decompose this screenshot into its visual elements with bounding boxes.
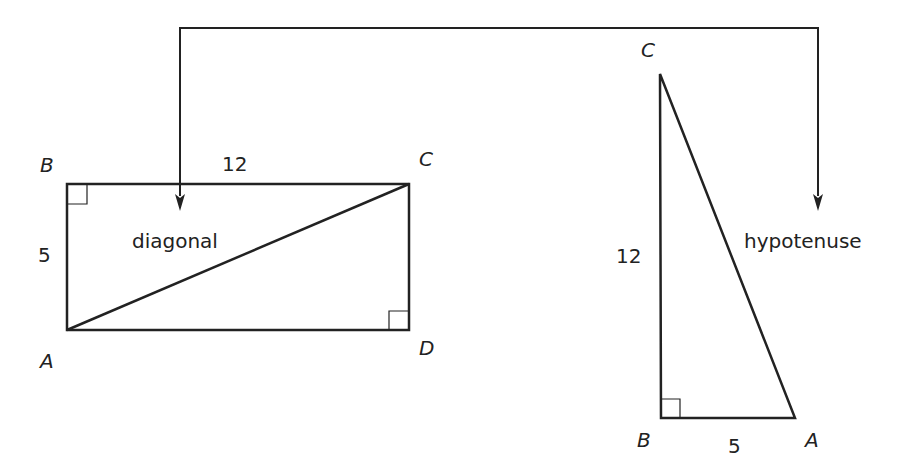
arrowhead-left-icon: [175, 194, 185, 211]
right-angle-marker-d: [389, 311, 409, 330]
tri-side-bottom-length: 5: [728, 434, 741, 458]
hypotenuse-label: hypotenuse: [744, 229, 862, 253]
rect-side-left-length: 5: [38, 243, 51, 267]
right-angle-marker-b: [67, 184, 87, 204]
tri-vertex-a: A: [803, 428, 819, 452]
rectangle-abcd: [67, 184, 409, 330]
rect-vertex-b: B: [40, 153, 54, 177]
rectangle-diagonal: [67, 184, 409, 330]
rect-vertex-d: D: [419, 336, 434, 360]
rect-side-top-length: 12: [222, 152, 247, 176]
diagram-canvas: B C A D 12 5 diagonal C B A 12 5 hypoten…: [0, 0, 910, 465]
tri-vertex-b: B: [637, 428, 651, 452]
arrowhead-right-icon: [813, 194, 823, 211]
rect-vertex-a: A: [38, 349, 54, 373]
tri-vertex-c: C: [641, 38, 655, 62]
right-angle-marker-tri-b: [661, 399, 680, 418]
diagonal-label: diagonal: [132, 229, 218, 253]
rect-vertex-c: C: [419, 147, 433, 171]
tri-side-vertical-length: 12: [616, 244, 641, 268]
